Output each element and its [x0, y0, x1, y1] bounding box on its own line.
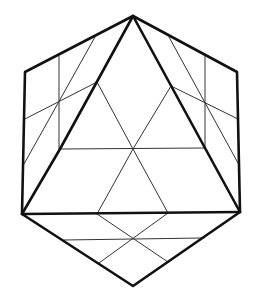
bottom-horizontal [64, 238, 204, 240]
middle-horizontal-band [22, 212, 240, 214]
lower-tri-left [97, 149, 133, 214]
thick-lines [22, 16, 240, 286]
lower-tri-right [133, 149, 168, 213]
tri-base-line [60, 148, 205, 149]
inner-tri-right-edge [133, 86, 171, 149]
inner-tri-left-edge [97, 82, 133, 149]
geometric-diagram [0, 0, 257, 296]
